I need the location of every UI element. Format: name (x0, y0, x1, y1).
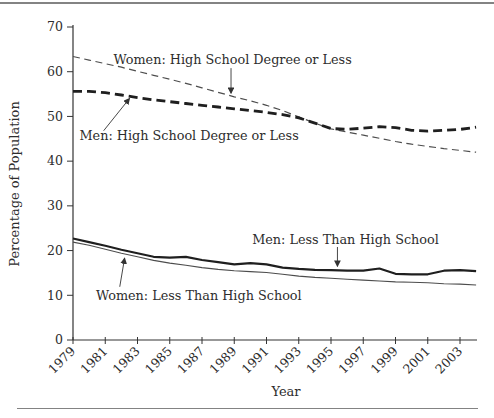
annotation-arrow-1 (104, 99, 130, 131)
annotation-label-3: Women: Less Than High School (96, 288, 302, 303)
y-tick-label: 50 (47, 109, 63, 124)
x-tick-label: 1995 (303, 344, 336, 377)
series-line-1 (73, 91, 476, 131)
x-tick-label: 1979 (45, 343, 78, 376)
series-annotations: Women: High School Degree or LessMen: Hi… (79, 52, 438, 303)
figure-education-chart: 010203040506070 197919811983198519871989… (0, 0, 494, 418)
x-tick-label: 1991 (239, 344, 272, 377)
x-tick-label: 2001 (400, 344, 433, 377)
y-tick-label: 40 (47, 153, 63, 168)
x-tick-label: 2003 (432, 343, 465, 376)
annotation-arrow-3 (120, 258, 125, 287)
y-tick-label: 20 (47, 243, 63, 258)
x-axis-label: Year (270, 384, 301, 399)
x-tick-label: 1987 (174, 343, 207, 376)
x-tick-label: 1993 (271, 343, 304, 376)
x-tick-label: 1985 (142, 344, 175, 377)
y-tick-label: 10 (47, 288, 63, 303)
annotation-label-0: Women: High School Degree or Less (113, 52, 351, 67)
y-axis-label: Percentage of Population (7, 101, 22, 267)
y-tick-label: 30 (47, 198, 63, 213)
line-chart: 010203040506070 197919811983198519871989… (0, 0, 494, 418)
x-tick-label: 1983 (110, 343, 143, 376)
y-tick-label: 60 (47, 64, 63, 79)
x-axis-ticks: 1979198119831985198719891991199319951997… (45, 337, 465, 377)
x-tick-label: 1981 (77, 344, 110, 377)
annotation-label-1: Men: High School Degree or Less (79, 128, 298, 143)
y-axis-ticks: 010203040506070 (47, 19, 73, 347)
series-line-3 (73, 242, 476, 285)
annotation-label-2: Men: Less Than High School (252, 232, 439, 247)
series-lines (73, 57, 476, 286)
x-tick-label: 1997 (335, 343, 368, 376)
y-tick-label: 0 (55, 332, 63, 347)
y-tick-label: 70 (47, 19, 63, 34)
x-tick-label: 1999 (368, 343, 401, 376)
x-tick-label: 1989 (206, 343, 239, 376)
